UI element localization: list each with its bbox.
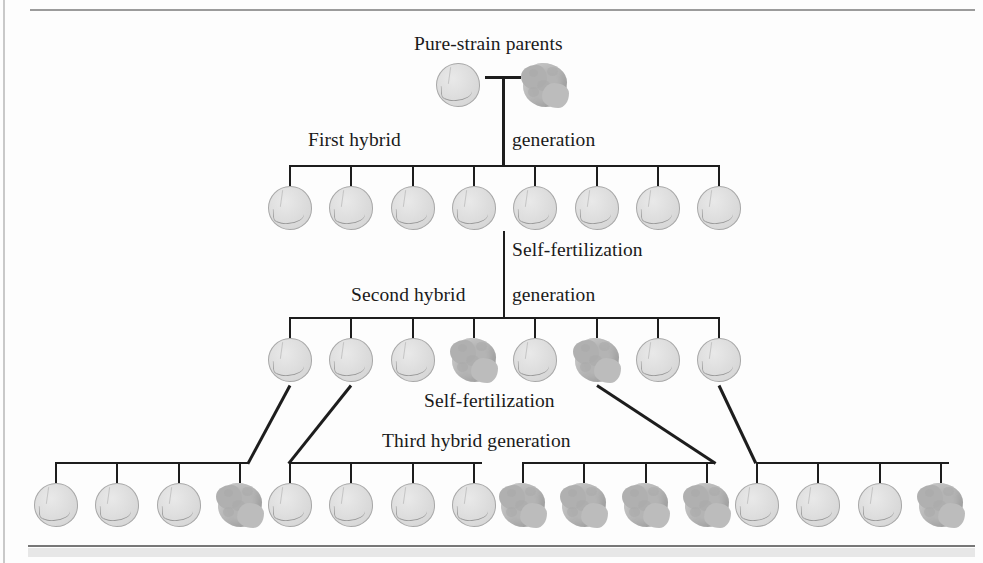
pea-round-gen0-1 — [436, 63, 480, 107]
pea-round-gen2-3 — [391, 338, 435, 382]
gen3-bracket-drop-5 — [289, 462, 291, 483]
pea-wrinkled-gen2-6 — [575, 338, 619, 382]
gen3-bracket-drop-8 — [473, 462, 475, 483]
pea-round-gen3-15 — [858, 483, 902, 527]
parents-to-gen1-trunk — [502, 137, 505, 166]
pea-round-gen1-7 — [636, 186, 680, 230]
pea-round-gen1-8 — [697, 186, 741, 230]
pea-round-gen1-6 — [575, 186, 619, 230]
gen1-self-fertilization-trunk — [503, 231, 505, 283]
pea-round-gen2-5 — [513, 338, 557, 382]
gen1-bracket-drop-1 — [289, 165, 291, 186]
gen1-bracket-drop-4 — [473, 165, 475, 186]
gen3-bracket-drop-10 — [583, 462, 585, 483]
gen2-to-gen3-link-1 — [247, 385, 292, 464]
gen1-bracket-drop-7 — [657, 165, 659, 186]
figure-canvas: Pure-strain parents First hybrid generat… — [0, 0, 983, 563]
self-fertilization-label-2: Self-fertilization — [424, 390, 555, 412]
gen3-bracket-drop-6 — [350, 462, 352, 483]
pea-round-gen2-7 — [636, 338, 680, 382]
pea-round-gen2-8 — [697, 338, 741, 382]
gen2-to-gen3-link-3 — [596, 384, 716, 465]
gen3-bracket-rail-2 — [289, 462, 482, 464]
pea-wrinkled-gen3-12 — [685, 483, 729, 527]
pea-round-gen3-7 — [391, 483, 435, 527]
pea-round-gen1-3 — [391, 186, 435, 230]
pea-wrinkled-gen3-11 — [624, 483, 668, 527]
gen3-bracket-rail-1 — [55, 462, 248, 464]
cross-symbol-stem — [502, 78, 505, 137]
pea-wrinkled-gen3-9 — [501, 483, 545, 527]
gen2-label-left: Second hybrid — [351, 284, 466, 306]
gen3-bracket-rail-3 — [522, 462, 715, 464]
gen2-to-gen3-link-2 — [288, 385, 353, 465]
gen2-trunk — [503, 283, 505, 318]
gen1-bracket-drop-3 — [412, 165, 414, 186]
gen1-bracket-drop-8 — [718, 165, 720, 186]
gen3-bracket-drop-7 — [412, 462, 414, 483]
pea-round-gen3-3 — [157, 483, 201, 527]
gen2-bracket-drop-6 — [596, 317, 598, 338]
gen3-bracket-drop-3 — [178, 462, 180, 483]
page-frame-top-rule — [30, 9, 975, 11]
pea-round-gen3-5 — [268, 483, 312, 527]
parents-label: Pure-strain parents — [414, 33, 563, 55]
gen3-bracket-drop-16 — [940, 462, 942, 483]
gen2-bracket-drop-1 — [289, 317, 291, 338]
pea-round-gen3-6 — [329, 483, 373, 527]
gen3-bracket-drop-2 — [116, 462, 118, 483]
pea-round-gen3-13 — [735, 483, 779, 527]
pea-round-gen3-2 — [95, 483, 139, 527]
pea-round-gen3-8 — [452, 483, 496, 527]
pea-round-gen1-5 — [513, 186, 557, 230]
gen2-bracket-drop-5 — [534, 317, 536, 338]
pea-round-gen2-2 — [329, 338, 373, 382]
pea-round-gen3-1 — [34, 483, 78, 527]
self-fertilization-label-1: Self-fertilization — [512, 239, 643, 261]
gen3-bracket-drop-12 — [706, 462, 708, 483]
gen1-bracket-rail — [289, 165, 719, 167]
page-frame-bottom-rule — [28, 545, 975, 547]
pea-round-gen1-2 — [329, 186, 373, 230]
gen3-bracket-drop-13 — [756, 462, 758, 483]
gen2-bracket-drop-7 — [657, 317, 659, 338]
gen2-bracket-drop-4 — [473, 317, 475, 338]
gen3-bracket-drop-15 — [879, 462, 881, 483]
gen1-bracket-drop-5 — [534, 165, 536, 186]
gen2-bracket-rail — [289, 317, 719, 319]
pea-wrinkled-gen3-10 — [562, 483, 606, 527]
gen2-label-right: generation — [512, 284, 595, 306]
pea-wrinkled-gen3-16 — [919, 483, 963, 527]
pea-wrinkled-gen0-2 — [523, 63, 567, 107]
page-frame-bottom-band — [28, 548, 975, 557]
gen2-to-gen3-link-4 — [718, 385, 758, 464]
gen2-bracket-drop-2 — [350, 317, 352, 338]
gen1-label-right: generation — [512, 129, 595, 151]
gen3-bracket-drop-4 — [239, 462, 241, 483]
gen1-bracket-drop-6 — [596, 165, 598, 186]
page-frame-left-edge — [3, 0, 5, 563]
gen3-bracket-rail-4 — [756, 462, 949, 464]
gen3-bracket-drop-11 — [645, 462, 647, 483]
gen1-label-left: First hybrid — [308, 129, 401, 151]
pea-round-gen1-4 — [452, 186, 496, 230]
pea-round-gen3-14 — [796, 483, 840, 527]
gen1-bracket-drop-2 — [350, 165, 352, 186]
pea-round-gen1-1 — [268, 186, 312, 230]
gen3-bracket-drop-14 — [817, 462, 819, 483]
gen2-bracket-drop-3 — [412, 317, 414, 338]
pea-round-gen2-1 — [268, 338, 312, 382]
pea-wrinkled-gen2-4 — [452, 338, 496, 382]
gen3-bracket-drop-1 — [55, 462, 57, 483]
gen3-label: Third hybrid generation — [382, 430, 571, 452]
gen3-bracket-drop-9 — [522, 462, 524, 483]
gen2-bracket-drop-8 — [718, 317, 720, 338]
pea-wrinkled-gen3-4 — [218, 483, 262, 527]
